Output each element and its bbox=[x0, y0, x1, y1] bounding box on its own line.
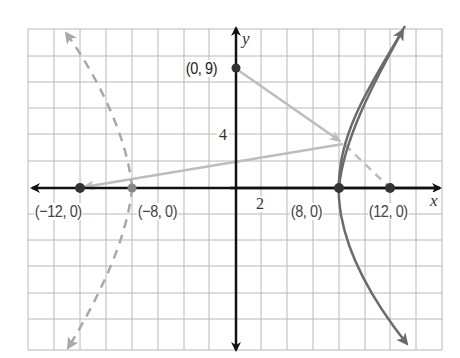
y-tick-4: 4 bbox=[217, 127, 229, 143]
point-neg12-0 bbox=[75, 183, 85, 193]
x-axis-label: x bbox=[430, 192, 438, 209]
focus-extension-dashed bbox=[345, 145, 388, 186]
point-0-9 bbox=[232, 64, 241, 73]
hyperbola-right-branch bbox=[339, 26, 407, 344]
hyperbola-graph bbox=[0, 0, 460, 358]
label-point-0-9: (0, 9) bbox=[185, 60, 218, 77]
y-axis-label: y bbox=[242, 30, 250, 47]
label-point-12-0: (12, 0) bbox=[368, 203, 408, 220]
point-8-0 bbox=[334, 183, 344, 193]
reflected-ray bbox=[84, 144, 343, 187]
point-12-0 bbox=[385, 183, 395, 193]
label-point-neg12-0: (−12, 0) bbox=[34, 203, 83, 220]
label-point-neg8-0: (−8, 0) bbox=[137, 203, 178, 220]
label-point-8-0: (8, 0) bbox=[290, 203, 323, 220]
x-tick-2: 2 bbox=[254, 196, 266, 212]
point-neg8-0 bbox=[128, 184, 137, 193]
